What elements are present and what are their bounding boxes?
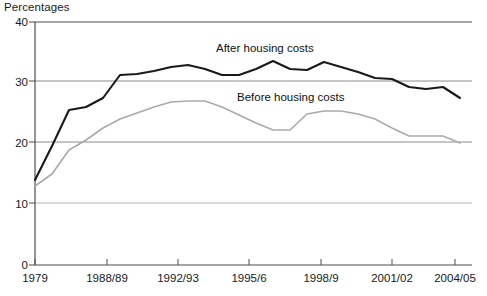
series-line-before-housing-costs <box>35 101 460 186</box>
axes <box>29 22 472 265</box>
series-line-after-housing-costs <box>35 61 460 180</box>
chart-plot <box>0 0 487 296</box>
chart-container: Percentages 40 30 20 10 0 1979 1988/89 1… <box>0 0 487 296</box>
gridlines <box>35 22 472 203</box>
